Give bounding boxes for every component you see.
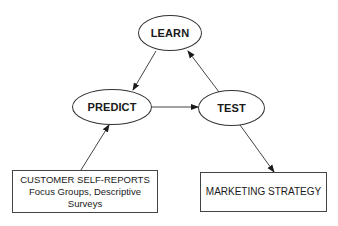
marketing-line-1: MARKETING STRATEGY <box>206 186 321 198</box>
node-test: TEST <box>198 90 265 126</box>
customer-line-1: CUSTOMER SELF-REPORTS <box>20 174 150 186</box>
node-learn-label: LEARN <box>151 27 189 39</box>
node-marketing-strategy: MARKETING STRATEGY <box>200 172 327 212</box>
node-predict: PREDICT <box>72 89 152 125</box>
edge-test-to-marketing <box>240 125 274 172</box>
edge-test-to-learn <box>188 51 219 92</box>
edge-customer-to-predict <box>81 125 109 170</box>
customer-line-3: Surveys <box>68 198 102 210</box>
node-customer-self-reports: CUSTOMER SELF-REPORTS Focus Groups, Desc… <box>12 170 158 213</box>
customer-line-2: Focus Groups, Descriptive <box>29 186 141 198</box>
diagram-canvas: LEARN PREDICT TEST CUSTOMER SELF-REPORTS… <box>0 0 338 226</box>
node-learn: LEARN <box>138 15 202 51</box>
node-test-label: TEST <box>217 102 246 114</box>
node-predict-label: PREDICT <box>88 101 137 113</box>
edge-learn-to-predict <box>133 51 156 90</box>
